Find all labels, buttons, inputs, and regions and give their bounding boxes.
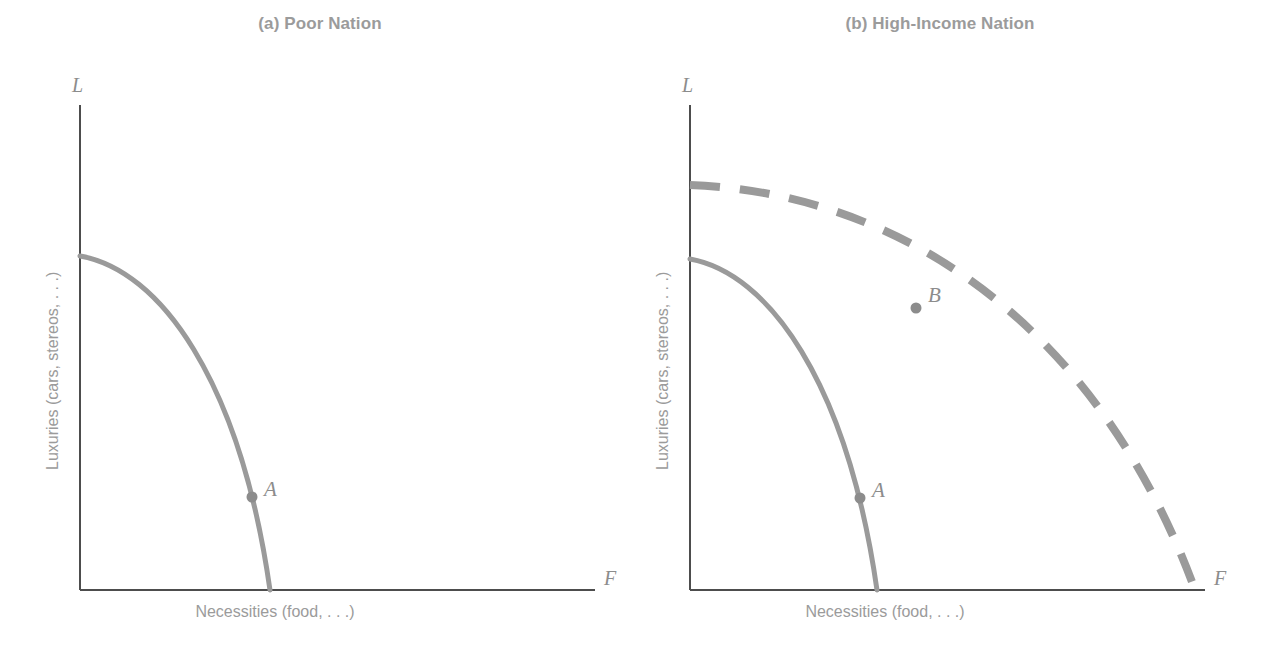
panel-b-point-b-marker <box>911 303 922 314</box>
figure-container: (a) Poor Nation (b) High-Income Nation L… <box>0 0 1269 652</box>
panel-a-y-axis-label: Luxuries (cars, stereos, . . .) <box>44 272 62 470</box>
panel-b-x-axis-label: Necessities (food, . . .) <box>690 603 1080 621</box>
figure-svg <box>0 0 1269 652</box>
panel-a-x-axis-letter: F <box>604 567 616 590</box>
panel-a-point-a-label: A <box>264 477 277 502</box>
panel-b-plot <box>690 105 1205 590</box>
panel-b-y-axis-label: Luxuries (cars, stereos, . . .) <box>654 272 672 470</box>
panel-a-x-axis-label: Necessities (food, . . .) <box>80 603 470 621</box>
panel-a-point-a-marker <box>247 492 258 503</box>
panel-b-y-axis-letter: L <box>682 74 693 97</box>
panel-a-y-axis-letter: L <box>72 74 83 97</box>
panel-b-ppf-curve-original <box>690 259 877 590</box>
panel-b-point-b-label: B <box>928 283 941 308</box>
panel-a-plot <box>80 105 595 590</box>
panel-a-ppf-curve <box>80 256 270 590</box>
panel-b-point-a-label: A <box>872 478 885 503</box>
panel-b-ppf-curve-expanded <box>690 185 1195 590</box>
panel-b-point-a-marker <box>855 493 866 504</box>
panel-b-x-axis-letter: F <box>1214 567 1226 590</box>
